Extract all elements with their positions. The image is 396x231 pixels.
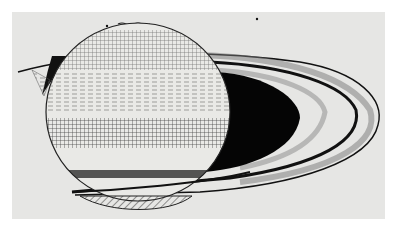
saturn-sketch <box>0 0 396 231</box>
south-polar-cap <box>80 196 192 210</box>
equatorial-belt <box>40 118 240 148</box>
image-frame <box>0 0 396 231</box>
north-polar-band <box>40 30 240 70</box>
temperate-band <box>40 72 240 112</box>
dot-mark <box>256 18 258 20</box>
dot-mark <box>106 25 108 27</box>
